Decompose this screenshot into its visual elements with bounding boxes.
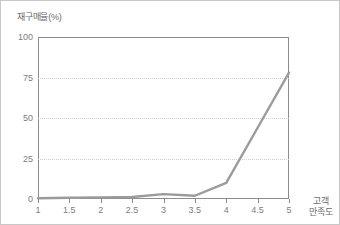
- x-axis-tick-mark: [38, 199, 39, 203]
- x-axis-tick-mark: [69, 199, 70, 203]
- x-axis-tick-mark: [258, 199, 259, 203]
- y-axis-tick-label: 25: [23, 154, 33, 164]
- x-axis-title: 고객만족도: [301, 196, 340, 218]
- x-axis-tick-mark: [164, 199, 165, 203]
- y-axis-tick-label: 0: [28, 194, 33, 204]
- x-axis-tick-mark: [195, 199, 196, 203]
- x-axis-title-line: 고객: [301, 196, 340, 207]
- x-axis-tick-label: 4.5: [251, 205, 264, 215]
- x-axis-tick-mark: [226, 199, 227, 203]
- x-axis-tick-label: 5: [286, 205, 291, 215]
- x-axis-tick-labels: 11.522.533.544.55: [38, 199, 289, 221]
- x-axis-tick-label: 2.5: [126, 205, 139, 215]
- x-axis-tick-label: 3.5: [189, 205, 202, 215]
- plot-area: [38, 37, 289, 199]
- y-axis-tick-label: 100: [18, 32, 33, 42]
- x-axis-tick-mark: [132, 199, 133, 203]
- y-axis-tick-label: 75: [23, 73, 33, 83]
- x-axis-tick-mark: [101, 199, 102, 203]
- x-axis-tick-label: 1: [35, 205, 40, 215]
- chart-figure: 재구매율(%) 0255075100 11.522.533.544.55 고객만…: [0, 0, 340, 225]
- x-axis-tick-label: 1.5: [63, 205, 76, 215]
- y-axis-tick-labels: 0255075100: [1, 37, 33, 199]
- x-axis-tick-mark: [289, 199, 290, 203]
- y-axis-tick-label: 50: [23, 113, 33, 123]
- x-axis-tick-label: 4: [224, 205, 229, 215]
- x-axis-tick-label: 2: [98, 205, 103, 215]
- x-axis-title-line: 만족도: [301, 207, 340, 218]
- x-axis-tick-label: 3: [161, 205, 166, 215]
- series-line-repurchase-rate: [38, 37, 289, 199]
- y-axis-title: 재구매율(%): [17, 10, 62, 23]
